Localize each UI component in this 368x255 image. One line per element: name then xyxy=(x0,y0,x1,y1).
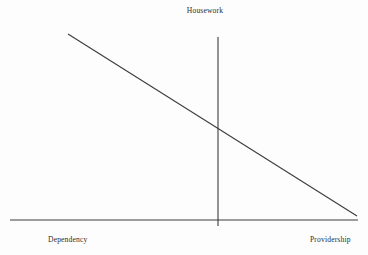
chart-plot-area xyxy=(0,0,368,255)
chart-title: Housework xyxy=(0,7,368,15)
chart-figure: Housework Dependency Providership xyxy=(0,0,368,255)
housework-trend-line xyxy=(68,34,357,216)
axis-label-providership: Providership xyxy=(310,236,351,244)
axis-label-dependency: Dependency xyxy=(48,236,87,244)
